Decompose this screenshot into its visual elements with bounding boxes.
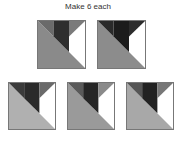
quilt-block-c [8, 82, 56, 130]
quilt-block-b [97, 20, 146, 69]
quilt-block-e [126, 82, 174, 130]
caption: Make 6 each [0, 2, 176, 11]
quilt-block-a [37, 20, 86, 69]
quilt-block-d [67, 82, 115, 130]
